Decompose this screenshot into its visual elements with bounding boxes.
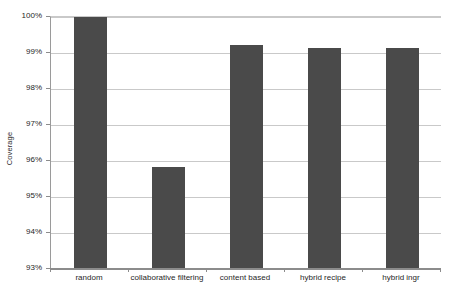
bar — [230, 45, 263, 269]
x-tick-mark — [284, 268, 285, 272]
y-axis-title: Coverage — [0, 0, 20, 297]
y-tick-label: 97% — [0, 120, 42, 128]
x-tick-mark — [128, 268, 129, 272]
x-tick-label: hybrid ingr — [362, 274, 440, 283]
y-tick-label: 93% — [0, 264, 42, 272]
bar — [152, 167, 185, 269]
y-tick-label: 96% — [0, 156, 42, 164]
y-tick-label: 94% — [0, 228, 42, 236]
gridline — [51, 17, 441, 18]
x-axis-line — [50, 268, 440, 269]
bar — [308, 48, 341, 269]
coverage-bar-chart: Coverage 100%99%98%97%96%95%94%93% rando… — [0, 0, 450, 297]
x-tick-label: hybrid recipe — [284, 274, 362, 283]
x-tick-mark — [206, 268, 207, 272]
y-tick-label: 100% — [0, 12, 42, 20]
plot-area — [50, 16, 441, 269]
gridline — [51, 269, 441, 270]
x-tick-mark — [362, 268, 363, 272]
bar — [74, 17, 107, 269]
y-tick-label: 98% — [0, 84, 42, 92]
y-axis-title-text: Coverage — [6, 132, 15, 165]
y-tick-label: 99% — [0, 48, 42, 56]
x-tick-label: content based — [206, 274, 284, 283]
x-tick-mark — [440, 268, 441, 272]
x-tick-label: collaborative filtering — [128, 274, 206, 283]
bar — [386, 48, 419, 269]
x-tick-mark — [50, 268, 51, 272]
x-tick-label: random — [50, 274, 128, 283]
y-tick-label: 95% — [0, 192, 42, 200]
